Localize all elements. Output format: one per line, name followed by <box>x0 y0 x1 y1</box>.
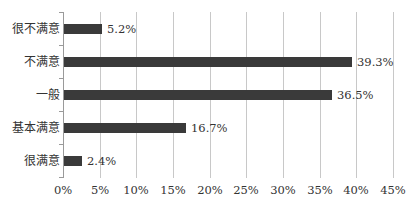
bar <box>64 123 186 133</box>
x-tick-label: 5% <box>91 183 109 197</box>
x-tick-label: 40% <box>343 183 369 197</box>
value-label: 2.4% <box>87 154 116 168</box>
x-tick-label: 10% <box>123 183 149 197</box>
category-label: 不满意 <box>24 55 60 69</box>
x-tick-label: 0% <box>54 183 72 197</box>
x-tick-label: 15% <box>160 183 186 197</box>
y-axis-tick <box>59 177 63 178</box>
value-label: 16.7% <box>191 121 228 135</box>
y-axis-tick <box>59 45 63 46</box>
x-tick-label: 20% <box>197 183 223 197</box>
bar <box>64 156 82 166</box>
category-label: 很不满意 <box>12 22 60 36</box>
y-axis-tick <box>59 144 63 145</box>
category-label: 基本满意 <box>12 121 60 135</box>
x-tick-label: 30% <box>270 183 296 197</box>
y-axis-tick <box>59 12 63 13</box>
bar <box>64 90 332 100</box>
y-axis-tick <box>59 78 63 79</box>
category-label: 一般 <box>36 88 60 102</box>
y-axis-tick <box>59 111 63 112</box>
category-label: 很满意 <box>24 154 60 168</box>
gridline <box>393 12 394 178</box>
bar <box>64 24 102 34</box>
x-tick-label: 45% <box>380 183 406 197</box>
value-label: 39.3% <box>357 55 394 69</box>
value-label: 36.5% <box>337 88 374 102</box>
x-tick-label: 35% <box>307 183 333 197</box>
x-tick-label: 25% <box>233 183 259 197</box>
bar <box>64 57 352 67</box>
value-label: 5.2% <box>107 22 136 36</box>
bar-chart: 0%5%10%15%20%25%30%35%40%45%很不满意5.2%不满意3… <box>0 0 416 210</box>
